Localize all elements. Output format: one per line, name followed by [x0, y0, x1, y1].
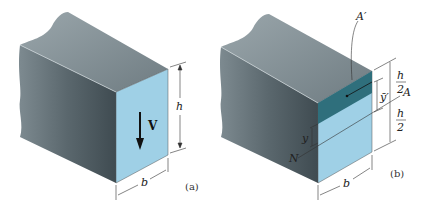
half-height-top-num: h [397, 69, 404, 82]
area-label-a-prime: A′ [355, 10, 367, 23]
half-height-bottom-den: 2 [396, 121, 404, 134]
height-label-h: h [176, 100, 183, 113]
half-height-top-den: 2 [396, 83, 404, 96]
caption-a: (a) [185, 181, 199, 192]
caption-b: (b) [390, 168, 404, 179]
figure-b: A′ A N y ȳ′ h 2 h 2 [220, 10, 411, 200]
half-height-bottom-num: h [397, 107, 404, 120]
centroid-dot [346, 95, 349, 98]
shear-stress-diagram: V h b (a) A′ [0, 0, 429, 218]
centroid-label-ybar: ȳ′ [379, 91, 389, 104]
width-label-b: b [343, 177, 350, 190]
width-label-b: b [141, 176, 148, 189]
force-label-v: V [147, 119, 158, 133]
figure-a: V h b (a) [19, 12, 199, 200]
y-label: y [301, 132, 309, 145]
neutral-axis-label-n: N [288, 152, 299, 165]
